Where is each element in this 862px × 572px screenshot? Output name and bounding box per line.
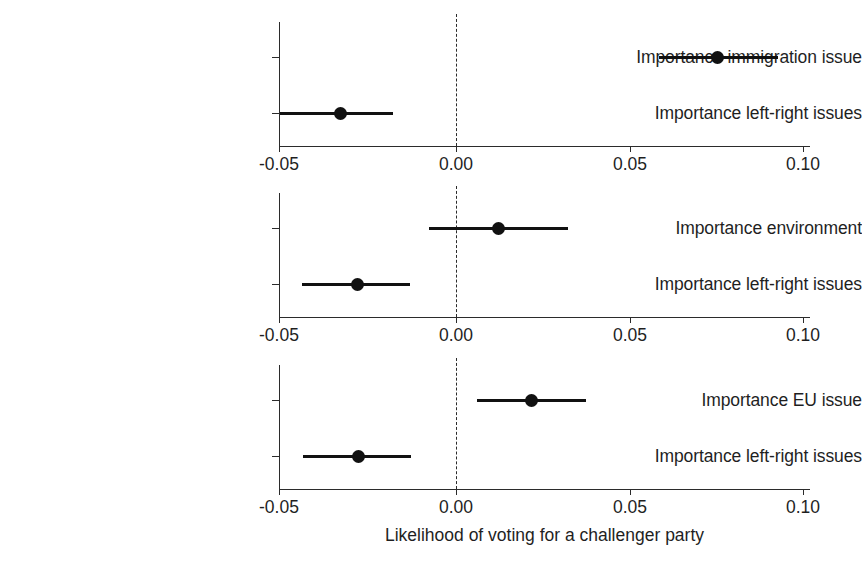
panel1-zero-reference-line	[456, 14, 457, 146]
panel3-y-tick-row2	[272, 456, 279, 457]
panel2-x-tick-005	[630, 317, 631, 323]
panel1-x-tick-neg005	[279, 146, 280, 152]
panel2-x-axis-spine	[279, 317, 810, 318]
panel3-x-tick-010	[803, 489, 804, 495]
panel3-row2-label: Importance left-right issues	[600, 448, 862, 466]
panel2-x-tick-000	[456, 317, 457, 323]
panel3-x-ticklabel-000: 0.00	[416, 499, 496, 517]
panel1-row2-label: Importance left-right issues	[600, 105, 862, 123]
panel3-row1-point-estimate	[525, 394, 538, 407]
panel3-row1-label: Importance EU issue	[600, 392, 862, 410]
panel2-x-tick-neg005	[279, 317, 280, 323]
panel1-x-ticklabel-neg005: -0.05	[239, 156, 319, 174]
panel2-y-tick-row1	[272, 228, 279, 229]
panel2-x-ticklabel-neg005: -0.05	[239, 327, 319, 345]
panel1-row2-point-estimate	[334, 107, 347, 120]
panel2-row1-label: Importance environment	[600, 220, 862, 238]
panel2-row1-point-estimate	[492, 222, 505, 235]
x-axis-title: Likelihood of voting for a challenger pa…	[279, 527, 810, 545]
panel1-y-tick-row1	[272, 57, 279, 58]
panel1-row1-point-estimate	[711, 51, 724, 64]
panel2-x-ticklabel-010: 0.10	[763, 327, 843, 345]
panel2-x-tick-010	[803, 317, 804, 323]
panel1-x-axis-spine	[279, 146, 810, 147]
panel1-x-ticklabel-010: 0.10	[763, 156, 843, 174]
panel3-x-tick-005	[630, 489, 631, 495]
panel3-y-tick-row1	[272, 400, 279, 401]
panel3-x-ticklabel-005: 0.05	[590, 499, 670, 517]
panel3-zero-reference-line	[456, 358, 457, 489]
panel2-x-ticklabel-000: 0.00	[416, 327, 496, 345]
panel3-x-ticklabel-010: 0.10	[763, 499, 843, 517]
panel1-x-tick-005	[630, 146, 631, 152]
panel2-row2-point-estimate	[351, 278, 364, 291]
panel2-y-axis-spine	[279, 193, 280, 318]
panel1-x-tick-010	[803, 146, 804, 152]
panel3-x-axis-spine	[279, 489, 810, 490]
panel3-row2-point-estimate	[352, 450, 365, 463]
panel2-zero-reference-line	[456, 186, 457, 317]
panel1-x-ticklabel-000: 0.00	[416, 156, 496, 174]
panel2-row2-label: Importance left-right issues	[600, 276, 862, 294]
panel3-x-tick-neg005	[279, 489, 280, 495]
panel3-x-ticklabel-neg005: -0.05	[239, 499, 319, 517]
panel2-y-tick-row2	[272, 284, 279, 285]
panel3-y-axis-spine	[279, 365, 280, 490]
panel1-x-tick-000	[456, 146, 457, 152]
panel1-y-tick-row2	[272, 113, 279, 114]
panel1-x-ticklabel-005: 0.05	[590, 156, 670, 174]
panel2-x-ticklabel-005: 0.05	[590, 327, 670, 345]
panel1-y-axis-spine	[279, 22, 280, 147]
panel3-x-tick-000	[456, 489, 457, 495]
coefficient-plot-figure: Importance immigration issue Importance …	[0, 0, 862, 572]
